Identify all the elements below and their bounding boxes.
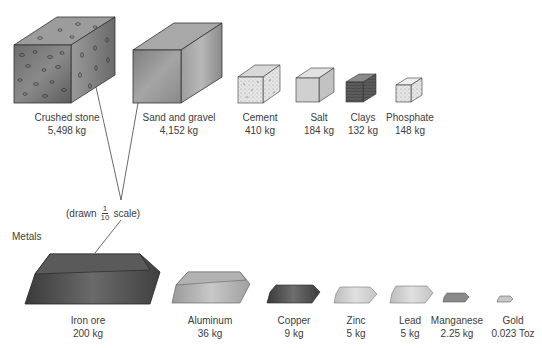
metal-name: Copper	[278, 314, 311, 327]
label-lead: Lead 5 kg	[399, 314, 421, 340]
phosphate-cube	[396, 78, 422, 102]
clays-cube	[346, 74, 376, 102]
cement-cube	[238, 65, 280, 103]
label-clays: Clays 132 kg	[348, 111, 378, 137]
label-manganese: Manganese 2.25 kg	[431, 314, 483, 340]
mineral-amount: 184 kg	[304, 124, 334, 137]
mineral-name: Crushed stone	[34, 111, 99, 124]
label-zinc: Zinc 5 kg	[347, 314, 366, 340]
salt-cube	[296, 68, 334, 102]
zinc-ingot	[334, 287, 377, 303]
label-copper: Copper 9 kg	[278, 314, 311, 340]
metal-amount: 5 kg	[347, 327, 366, 340]
metals-heading: Metals	[12, 231, 41, 242]
crushed-stone-cube	[14, 17, 115, 103]
label-crushed-stone: Crushed stone 5,498 kg	[34, 111, 99, 137]
manganese-ingot	[443, 293, 469, 302]
scale-fraction: 1 10	[101, 205, 110, 222]
metal-name: Zinc	[347, 314, 366, 327]
scale-pointer-lines	[95, 87, 138, 253]
iron-ore-ingot	[25, 254, 160, 304]
metal-amount: 2.25 kg	[431, 327, 483, 340]
scale-denominator: 10	[101, 214, 110, 222]
mineral-amount: 148 kg	[386, 124, 434, 137]
mineral-name: Sand and gravel	[143, 111, 216, 124]
mineral-name: Clays	[348, 111, 378, 124]
diagram-artwork	[0, 0, 542, 348]
metal-amount: 200 kg	[71, 327, 105, 340]
gold-ingot	[497, 296, 513, 302]
metal-amount: 36 kg	[188, 327, 232, 340]
metal-name: Lead	[399, 314, 421, 327]
metal-name: Manganese	[431, 314, 483, 327]
mineral-name: Cement	[242, 111, 277, 124]
metal-amount: 9 kg	[278, 327, 311, 340]
mineral-name: Salt	[304, 111, 334, 124]
metal-name: Aluminum	[188, 314, 232, 327]
scale-note: (drawn 1 10 scale)	[66, 205, 140, 222]
metal-name: Gold	[491, 314, 534, 327]
metal-name: Iron ore	[71, 314, 105, 327]
mineral-amount: 5,498 kg	[34, 124, 99, 137]
label-sand-gravel: Sand and gravel 4,152 kg	[143, 111, 216, 137]
label-gold: Gold 0.023 Toz	[491, 314, 534, 340]
copper-ingot	[267, 285, 320, 303]
aluminum-ingot	[172, 272, 250, 303]
scale-prefix: (drawn	[66, 208, 97, 219]
mineral-amount: 132 kg	[348, 124, 378, 137]
label-cement: Cement 410 kg	[242, 111, 277, 137]
mineral-amount: 4,152 kg	[143, 124, 216, 137]
label-salt: Salt 184 kg	[304, 111, 334, 137]
label-phosphate: Phosphate 148 kg	[386, 111, 434, 137]
metal-amount: 5 kg	[399, 327, 421, 340]
mineral-amount: 410 kg	[242, 124, 277, 137]
metal-amount: 0.023 Toz	[491, 327, 534, 340]
label-iron-ore: Iron ore 200 kg	[71, 314, 105, 340]
scale-suffix: scale)	[113, 208, 140, 219]
sand-gravel-cube	[133, 23, 222, 103]
mineral-name: Phosphate	[386, 111, 434, 124]
label-aluminum: Aluminum 36 kg	[188, 314, 232, 340]
lead-ingot	[390, 286, 433, 303]
